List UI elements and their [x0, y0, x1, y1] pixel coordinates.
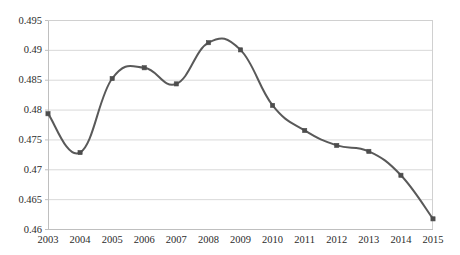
- x-axis-tick-label: 2005: [102, 234, 123, 245]
- x-axis-tick-label: 2014: [390, 234, 412, 245]
- x-axis-tick-label: 2009: [230, 234, 251, 245]
- data-point-marker: [46, 112, 50, 116]
- x-axis-tick-label: 2015: [423, 234, 444, 245]
- data-point-marker: [78, 150, 82, 154]
- data-point-marker: [142, 66, 146, 70]
- x-axis-tick-label: 2007: [166, 234, 187, 245]
- data-point-marker: [431, 217, 435, 221]
- data-point-marker: [270, 103, 274, 107]
- y-axis-tick-label: 0.475: [18, 134, 42, 145]
- data-point-marker: [399, 173, 403, 177]
- y-axis-tick-label: 0.465: [18, 194, 42, 205]
- y-axis-tick-label: 0.48: [24, 104, 42, 115]
- data-point-marker: [206, 41, 210, 45]
- data-point-marker: [238, 48, 242, 52]
- chart-canvas: 0.460.4650.470.4750.480.4850.490.495 200…: [0, 0, 460, 255]
- y-axis-tick-label: 0.49: [24, 44, 42, 55]
- data-point-marker: [303, 128, 307, 132]
- x-axis-tick-label: 2010: [262, 234, 283, 245]
- x-axis-tick-label: 2011: [294, 234, 315, 245]
- x-axis-tick-label: 2013: [358, 234, 379, 245]
- x-axis-tick-label: 2008: [198, 234, 219, 245]
- y-axis-tick-label: 0.485: [18, 74, 42, 85]
- y-axis-tick-label: 0.495: [18, 15, 42, 26]
- data-point-marker: [174, 82, 178, 86]
- x-axis-tick-label: 2003: [38, 234, 59, 245]
- x-axis-tick-label: 2012: [326, 234, 347, 245]
- data-point-marker: [367, 149, 371, 153]
- data-point-marker: [110, 76, 114, 80]
- data-point-marker: [335, 143, 339, 147]
- line-chart: 0.460.4650.470.4750.480.4850.490.495 200…: [0, 0, 460, 255]
- y-axis-tick-label: 0.46: [24, 224, 42, 235]
- y-axis-tick-label: 0.47: [24, 164, 42, 175]
- chart-background: [0, 0, 460, 255]
- x-axis-tick-label: 2004: [70, 234, 92, 245]
- x-axis-tick-label: 2006: [134, 234, 155, 245]
